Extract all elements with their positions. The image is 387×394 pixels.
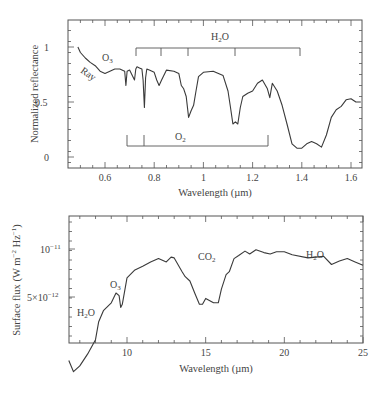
rayleigh-label: Ray xyxy=(79,65,99,83)
o3-label-top: O3 xyxy=(102,52,113,65)
x-tick-label: 20 xyxy=(279,347,289,358)
x-tick-label: 15 xyxy=(201,347,211,358)
x-tick-label: 1.6 xyxy=(345,172,358,183)
x-tick-label: 1 xyxy=(201,172,206,183)
o2-band-bracket xyxy=(127,135,268,146)
reflectance-spectrum-line xyxy=(78,47,361,148)
y-tick-1: 1 xyxy=(44,42,49,53)
y-tick-1e-11: 10−11 xyxy=(40,243,61,255)
top-y-axis-label: Normalized reflectance xyxy=(29,45,40,144)
top-x-axis-label: Wavelength (µm) xyxy=(178,187,252,199)
h2o-label-left: H2O xyxy=(77,307,95,320)
x-tick-label: 10 xyxy=(122,347,132,358)
top-x-tick-labels: 0.60.811.21.41.6 xyxy=(99,172,358,183)
bottom-x-axis-label: Wavelength (µm) xyxy=(179,363,253,375)
h2o-label-right: H2O xyxy=(306,249,324,262)
x-tick-label: 25 xyxy=(358,347,368,358)
bottom-x-tick-labels: 10152025 xyxy=(122,347,368,358)
co2-label: CO2 xyxy=(198,251,216,264)
x-tick-label: 0.6 xyxy=(99,172,112,183)
o2-label: O2 xyxy=(175,131,186,144)
bottom-chart: 10152025 10−11 5×10−12 Wavelength (µm) S… xyxy=(10,216,368,375)
thermal-flux-line xyxy=(69,250,363,372)
bottom-y-axis-label: Surface flux (W m−2 Hz−1) xyxy=(10,224,23,336)
x-tick-label: 1.4 xyxy=(296,172,309,183)
figure: 0.60.811.21.41.6 1 0.5 0 Wavelength (µm)… xyxy=(0,0,387,394)
top-chart: 0.60.811.21.41.6 1 0.5 0 Wavelength (µm)… xyxy=(29,20,362,199)
h2o-label-top: H2O xyxy=(211,31,229,44)
o3-label-bottom: O3 xyxy=(110,279,121,292)
y-tick-5e-12: 5×10−12 xyxy=(27,291,59,303)
x-tick-label: 0.8 xyxy=(148,172,161,183)
h2o-band-bracket xyxy=(136,48,300,56)
x-tick-label: 1.2 xyxy=(246,172,259,183)
y-tick-0: 0 xyxy=(44,152,49,163)
